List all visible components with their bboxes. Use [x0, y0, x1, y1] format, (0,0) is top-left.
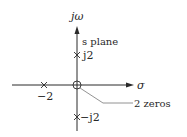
plane-label: s plane — [82, 36, 118, 47]
sigma-axis-label: σ — [137, 79, 145, 92]
pole-label-neg2: −2 — [37, 90, 53, 103]
pole-label-negj2: −j2 — [80, 111, 100, 124]
zero-annotation-label: 2 zeros — [134, 98, 171, 109]
sigma-axis-arrow-icon — [126, 83, 134, 88]
jw-axis-label: jω — [68, 10, 83, 23]
zero-annotation-leader — [80, 88, 133, 103]
jw-axis-arrow-icon — [75, 26, 80, 34]
pole-label-j2: j2 — [81, 49, 93, 62]
pole-zero-diagram: σ jω s plane j2 −2 −j2 2 zeros — [0, 0, 187, 137]
